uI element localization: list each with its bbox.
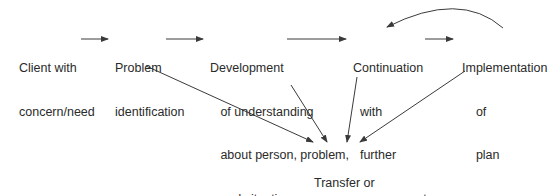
node-implementation-line: of	[462, 105, 547, 120]
node-transfer: Transfer or Referral or Termination	[314, 147, 379, 196]
node-problem-line: identification	[115, 105, 185, 120]
node-continuation-line: with	[353, 105, 427, 120]
node-development-line: Development	[210, 61, 349, 76]
node-implementation: Implementation of plan	[462, 32, 547, 177]
node-implementation-line: plan	[462, 148, 547, 163]
node-implementation-line: Implementation	[462, 61, 547, 76]
node-client: Client with concern/need	[19, 32, 95, 134]
node-development-line: of understanding	[210, 105, 349, 120]
node-problem-line: Problem	[115, 61, 185, 76]
node-transfer-line: Transfer or	[314, 176, 379, 191]
node-continuation-line: Continuation	[353, 61, 427, 76]
edge-implementation-to-continuation	[387, 9, 503, 28]
node-client-line: Client with	[19, 61, 95, 76]
node-client-line: concern/need	[19, 105, 95, 120]
node-problem: Problem identification	[115, 32, 185, 134]
